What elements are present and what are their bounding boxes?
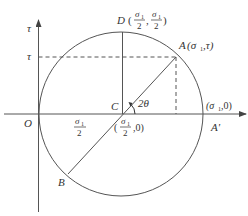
d-x-num: σ xyxy=(135,9,140,19)
cc-tail: ,0) xyxy=(133,122,144,134)
d-y-den: 2 xyxy=(154,21,159,31)
d-letter: D xyxy=(116,14,125,26)
s1-tail: ,0) xyxy=(221,100,232,112)
cc-sub: 1 xyxy=(127,121,130,127)
point-a-prime-label: A' xyxy=(210,121,221,133)
origin-label: O xyxy=(24,117,32,129)
cc-den: 2 xyxy=(123,128,128,138)
d-x-sub: 1 xyxy=(141,14,144,20)
sigma1-point-label: (σ 1 ,0) xyxy=(206,100,232,112)
a-letter: A xyxy=(178,39,186,51)
angle-arc xyxy=(131,105,135,115)
segment-oc-label: σ 1 2 xyxy=(74,116,86,138)
s1-text: (σ xyxy=(206,100,215,112)
svg-text:): ) xyxy=(163,14,167,27)
d-x-den: 2 xyxy=(137,21,142,31)
d-y-sub: 1 xyxy=(158,14,161,20)
d-y-num: σ xyxy=(152,9,157,19)
oc-den: 2 xyxy=(77,128,82,138)
point-b-label: B xyxy=(58,176,65,188)
point-d-label: D ( σ 1 2 , σ 1 2 ) xyxy=(116,9,167,31)
svg-text:,: , xyxy=(146,14,149,26)
cc-num: σ xyxy=(121,116,126,126)
a-tail: ,τ) xyxy=(203,39,214,52)
point-a-label: A (σ 1 ,τ) xyxy=(178,39,214,52)
center-c-label: C xyxy=(111,100,119,112)
a-coords: (σ xyxy=(187,39,197,52)
angle-2theta-label: 2θ xyxy=(138,97,150,109)
tau-axis-label: τ xyxy=(27,22,32,34)
oc-num: σ xyxy=(75,116,80,126)
tau-value-label: τ xyxy=(27,50,32,62)
svg-text:(: ( xyxy=(128,14,132,27)
mohr-circle-diagram: τ τ O C D ( σ 1 2 , σ 1 2 ) A (σ 1 ,τ) (… xyxy=(0,0,248,216)
cc-open: ( xyxy=(114,122,118,134)
oc-sub: 1 xyxy=(81,121,84,127)
